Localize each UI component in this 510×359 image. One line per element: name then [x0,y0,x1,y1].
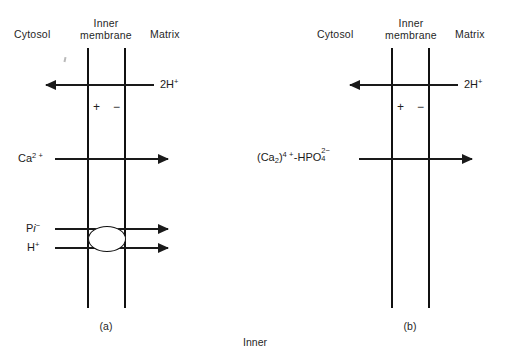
panel-a-header-cytosol: Cytosol [14,28,50,40]
arrow-head-right-icon [158,243,169,253]
panel-b-arrow-proton-efflux [350,84,458,86]
panel-a-label-proton-efflux: 2H+ [160,77,179,90]
panel-a-label-phosphate: Pi− [26,221,41,234]
panel-b-header-inner-membrane-line2: membrane [368,30,454,42]
bottom-partial-caption: Inner [0,336,510,348]
arrow-shaft [359,158,472,160]
panel-b-label-calcium-phosphate-complex: (Ca2)4 +-HPO2−4 [257,150,328,165]
panel-a-header-inner-membrane-line1: Inner [63,18,149,30]
panel-a: Cytosol Inner membrane Matrix 2H+ + − Ca… [0,0,255,359]
panel-a-label-calcium: Ca2 + [18,151,43,164]
arrow-head-right-icon [158,154,169,164]
panel-b-label-proton-efflux: 2H+ [464,77,483,90]
panel-a-transporter-oval [88,226,126,252]
panel-b: Cytosol Inner membrane Matrix 2H+ + − (C… [255,0,510,359]
panel-a-charge-positive: + [93,101,100,113]
panel-a-label-proton-uptake: H+ [27,240,40,253]
arrow-head-left-icon [45,80,56,90]
scan-artifact-speck [63,57,66,62]
panel-a-header-matrix: Matrix [150,28,180,40]
arrow-head-right-icon [158,224,169,234]
membrane-transport-figure: Cytosol Inner membrane Matrix 2H+ + − Ca… [0,0,510,359]
arrow-shaft [350,84,458,86]
panel-b-header-cytosol: Cytosol [317,28,353,40]
panel-a-caption: (a) [76,320,136,332]
panel-b-charge-positive: + [397,101,404,113]
panel-b-arrow-calcium-phosphate-uptake [359,158,472,160]
panel-a-charge-negative: − [113,101,120,113]
panel-a-arrow-calcium-uptake [55,158,168,160]
panel-a-membrane-line-inner [124,48,126,308]
panel-b-membrane-line-inner [428,48,430,308]
arrow-shaft [55,158,168,160]
panel-b-caption: (b) [380,320,440,332]
panel-b-charge-negative: − [417,101,424,113]
panel-a-arrow-proton-efflux [46,84,154,86]
panel-b-membrane-line-outer [391,48,393,308]
panel-a-membrane-line-outer [87,48,89,308]
arrow-head-right-icon [462,154,473,164]
panel-a-header-inner-membrane: Inner membrane [63,18,149,41]
arrow-shaft [46,84,154,86]
panel-b-header-inner-membrane: Inner membrane [368,18,454,41]
arrow-head-left-icon [349,80,360,90]
panel-a-header-inner-membrane-line2: membrane [63,30,149,42]
panel-b-header-matrix: Matrix [455,28,485,40]
panel-b-header-inner-membrane-line1: Inner [368,18,454,30]
